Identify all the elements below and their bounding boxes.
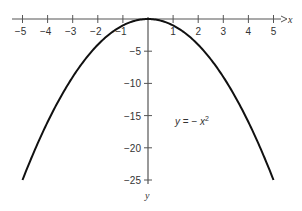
equation-exponent: 2 bbox=[205, 115, 209, 122]
y-tick-label: −25 bbox=[124, 175, 141, 186]
x-tick-label: 4 bbox=[246, 26, 252, 37]
x-tick-label: 2 bbox=[195, 26, 201, 37]
y-axis-label: y bbox=[144, 190, 150, 201]
x-tick-label: −1 bbox=[115, 26, 127, 37]
x-tick-label: 5 bbox=[271, 26, 277, 37]
equation-equals: = − bbox=[180, 116, 200, 127]
y-tick-label: −15 bbox=[124, 111, 141, 122]
x-tick-label: −3 bbox=[65, 26, 77, 37]
y-tick-label: −20 bbox=[124, 143, 141, 154]
y-tick-label: −5 bbox=[130, 46, 142, 57]
x-axis-label: x bbox=[287, 14, 293, 25]
x-tick-label: 3 bbox=[221, 26, 227, 37]
parabola-chart: −5−4−3−2−112345 −5−10−15−20−25 x y y = −… bbox=[0, 0, 302, 211]
y-tick-label: −10 bbox=[124, 78, 141, 89]
x-axis-arrow-icon bbox=[281, 16, 287, 22]
x-tick-label: −2 bbox=[90, 26, 102, 37]
x-tick-label: −5 bbox=[15, 26, 27, 37]
y-axis: −5−10−15−20−25 bbox=[124, 17, 152, 186]
x-tick-label: −4 bbox=[40, 26, 52, 37]
equation-label: y = − x2 bbox=[174, 115, 209, 127]
